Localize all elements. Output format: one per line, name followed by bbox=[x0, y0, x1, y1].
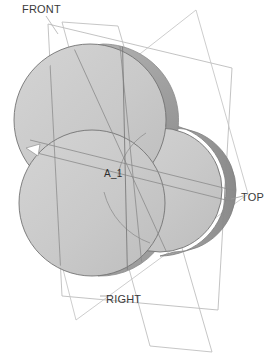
disc-lower-left-face bbox=[19, 130, 165, 276]
cad-model-canvas[interactable]: FRONT TOP RIGHT A_1 bbox=[0, 0, 274, 358]
datum-axis-label-a1[interactable]: A_1 bbox=[104, 168, 123, 179]
datum-label-right[interactable]: RIGHT bbox=[106, 293, 141, 305]
datum-label-front[interactable]: FRONT bbox=[22, 3, 61, 15]
cad-viewport[interactable]: FRONT TOP RIGHT A_1 bbox=[0, 0, 274, 358]
datum-label-top[interactable]: TOP bbox=[241, 191, 264, 203]
